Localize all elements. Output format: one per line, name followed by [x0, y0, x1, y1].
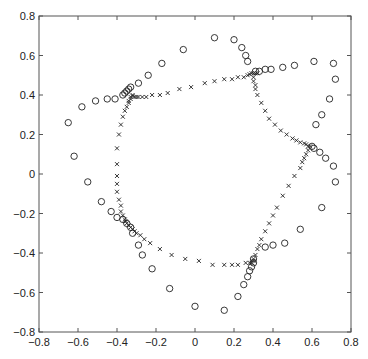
circle-marker — [235, 293, 241, 299]
cross-marker — [123, 109, 127, 113]
cross-marker — [306, 148, 310, 152]
x-tick-label: 0.6 — [304, 336, 319, 348]
cross-marker — [150, 93, 154, 97]
circle-marker — [244, 274, 250, 280]
circle-marker — [231, 37, 237, 43]
circle-marker — [280, 64, 286, 70]
circle-marker — [332, 179, 338, 185]
cross-marker — [213, 79, 217, 83]
x-tick-label: −0.4 — [106, 336, 128, 348]
cross-marker — [125, 105, 129, 109]
circle-marker — [244, 58, 250, 64]
circle-marker — [71, 153, 77, 159]
axes-frame — [39, 16, 351, 332]
cross-marker — [230, 263, 234, 267]
circle-marker — [180, 46, 186, 52]
cross-marker — [300, 160, 304, 164]
cross-marker — [267, 117, 271, 121]
cross-marker — [255, 247, 259, 251]
circle-marker — [112, 96, 118, 102]
circle-marker — [319, 112, 325, 118]
circle-marker — [262, 244, 268, 250]
cross-marker — [291, 136, 295, 140]
cross-marker — [119, 123, 123, 127]
axis-ticks — [39, 16, 351, 332]
circle-marker — [79, 104, 85, 110]
cross-marker — [259, 237, 263, 241]
cross-marker — [117, 198, 121, 202]
circle-marker — [149, 266, 155, 272]
circle-marker — [166, 285, 172, 291]
cross-marker — [142, 237, 146, 241]
cross-marker — [236, 263, 240, 267]
circle-marker — [311, 58, 317, 64]
y-tick-label: −0.8 — [13, 326, 35, 338]
cross-marker — [253, 87, 257, 91]
cross-marker — [287, 184, 291, 188]
circle-marker — [92, 98, 98, 104]
circle-marker — [211, 35, 217, 41]
cross-marker — [257, 243, 261, 247]
circle-marker — [313, 121, 319, 127]
x-tick-label: 0 — [192, 336, 198, 348]
cross-marker — [255, 93, 259, 97]
cross-marker — [117, 133, 121, 137]
cross-marker — [197, 259, 201, 263]
cross-marker — [230, 77, 234, 81]
circle-marker — [239, 44, 245, 50]
x-tick-label: −0.2 — [145, 336, 167, 348]
x-axis-tick-labels: −0.8−0.6−0.4−0.200.20.40.60.8 — [28, 336, 359, 348]
cross-marker — [244, 261, 248, 265]
circle-marker — [139, 252, 145, 258]
cross-marker — [138, 233, 142, 237]
cross-marker — [263, 109, 267, 113]
cross-marker — [183, 257, 187, 261]
y-axis-tick-labels: −0.8−0.6−0.4−0.200.20.40.60.8 — [13, 10, 35, 338]
cross-marker — [170, 253, 174, 257]
cross-marker — [115, 174, 119, 178]
cross-marker — [281, 194, 285, 198]
circle-marker — [317, 149, 323, 155]
circle-marker — [241, 281, 247, 287]
circle-marker — [319, 204, 325, 210]
cross-marker — [302, 156, 306, 160]
x-tick-label: −0.6 — [67, 336, 89, 348]
y-tick-label: 0.6 — [20, 50, 35, 62]
circle-marker — [297, 226, 303, 232]
cross-marker — [271, 213, 275, 217]
cross-marker — [177, 87, 181, 91]
cross-marker — [267, 221, 271, 225]
cross-marker — [140, 95, 144, 99]
cross-marker — [222, 77, 226, 81]
cross-marker — [304, 152, 308, 156]
cross-marker — [236, 75, 240, 79]
circle-marker — [65, 119, 71, 125]
circle-marker — [108, 208, 114, 214]
cross-marker — [242, 75, 246, 79]
circle-marker — [326, 96, 332, 102]
circle-marker — [114, 214, 120, 220]
cross-marker — [294, 138, 298, 142]
x-tick-label: 0.2 — [226, 336, 241, 348]
cross-marker — [279, 129, 283, 133]
cross-marker — [166, 91, 170, 95]
cross-marker — [222, 263, 226, 267]
circle-marker — [85, 179, 91, 185]
y-tick-label: −0.6 — [13, 287, 35, 299]
circle-marker — [135, 242, 141, 248]
circle-marker — [270, 242, 276, 248]
cross-marker — [158, 247, 162, 251]
circle-marker — [282, 240, 288, 246]
cross-marker — [203, 81, 207, 85]
cross-marker — [259, 101, 263, 105]
cross-marker — [158, 93, 162, 97]
cross-marker — [263, 229, 267, 233]
circle-marker — [332, 76, 338, 82]
circle-marker — [330, 163, 336, 169]
series-crosses — [115, 71, 312, 267]
cross-marker — [115, 182, 119, 186]
circle-marker — [98, 198, 104, 204]
cross-marker — [285, 133, 289, 137]
circle-marker — [322, 155, 328, 161]
y-tick-label: 0.4 — [20, 89, 35, 101]
